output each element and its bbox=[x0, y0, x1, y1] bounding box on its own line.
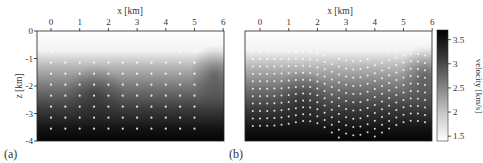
sample-point bbox=[316, 73, 318, 75]
sample-point bbox=[122, 84, 124, 86]
sample-point bbox=[273, 95, 275, 97]
sample-point bbox=[64, 117, 66, 119]
sample-point bbox=[352, 118, 354, 120]
sample-point bbox=[410, 53, 412, 55]
sample-point bbox=[374, 128, 376, 130]
sample-point bbox=[107, 84, 109, 86]
sample-point bbox=[179, 51, 181, 53]
sample-point bbox=[93, 128, 95, 130]
x-tick-label: 6 bbox=[221, 17, 226, 27]
sample-point bbox=[266, 125, 268, 127]
sample-point bbox=[107, 62, 109, 64]
sample-point bbox=[424, 62, 426, 64]
sample-point bbox=[179, 73, 181, 75]
sample-point bbox=[288, 51, 290, 53]
sample-point bbox=[410, 60, 412, 62]
sample-point bbox=[150, 62, 152, 64]
panel-a-z-axis: 0-1-2-3-4 bbox=[26, 26, 38, 146]
sample-point bbox=[395, 56, 397, 58]
sample-point bbox=[359, 126, 361, 128]
sample-point bbox=[316, 108, 318, 110]
sample-point bbox=[165, 106, 167, 108]
sample-point bbox=[252, 66, 254, 68]
sample-point bbox=[165, 62, 167, 64]
sample-point bbox=[309, 93, 311, 95]
sample-point bbox=[324, 126, 326, 128]
sample-point bbox=[273, 110, 275, 112]
sample-point bbox=[338, 113, 340, 115]
sample-point bbox=[93, 62, 95, 64]
colorbar-tick-label: 3 bbox=[453, 59, 458, 69]
sample-point bbox=[417, 113, 419, 115]
sample-point bbox=[374, 136, 376, 138]
sample-point bbox=[345, 76, 347, 78]
sample-point bbox=[93, 73, 95, 75]
sample-point bbox=[179, 106, 181, 108]
sample-point bbox=[281, 117, 283, 119]
sample-point bbox=[50, 106, 52, 108]
sample-point bbox=[288, 101, 290, 103]
panel-b-x-label: x [km] bbox=[327, 6, 353, 16]
z-tick-label: -1 bbox=[26, 54, 34, 64]
sample-point bbox=[417, 53, 419, 55]
sample-point bbox=[93, 84, 95, 86]
sample-point bbox=[50, 117, 52, 119]
sample-point bbox=[193, 106, 195, 108]
sample-point bbox=[273, 58, 275, 60]
sample-point bbox=[295, 100, 297, 102]
sample-point bbox=[259, 95, 261, 97]
sample-point bbox=[273, 51, 275, 53]
sample-point bbox=[266, 80, 268, 82]
sample-point bbox=[403, 99, 405, 101]
sample-point bbox=[410, 112, 412, 114]
sample-point bbox=[259, 58, 261, 60]
panel-a: 0123456 0-1-2-3-4 x [km] z [km] (a) bbox=[4, 0, 240, 161]
sample-point bbox=[309, 72, 311, 74]
sample-point bbox=[316, 80, 318, 82]
sample-point bbox=[403, 47, 405, 49]
sample-point bbox=[309, 86, 311, 88]
sample-point bbox=[179, 84, 181, 86]
sample-point bbox=[338, 129, 340, 131]
x-tick-label: 0 bbox=[49, 17, 54, 27]
colorbar-tick-label: 2.5 bbox=[453, 83, 465, 93]
sample-point bbox=[252, 73, 254, 75]
sample-point bbox=[193, 51, 195, 53]
sample-point bbox=[252, 58, 254, 60]
z-tick-label: 0 bbox=[29, 26, 34, 36]
sample-point bbox=[252, 88, 254, 90]
sample-point bbox=[410, 75, 412, 77]
sample-point bbox=[352, 77, 354, 79]
x-tick-label: 3 bbox=[344, 17, 349, 27]
sample-point bbox=[259, 88, 261, 90]
sample-point bbox=[424, 69, 426, 71]
sample-point bbox=[193, 84, 195, 86]
sample-point bbox=[381, 62, 383, 64]
sample-point bbox=[193, 95, 195, 97]
sample-point bbox=[309, 120, 311, 122]
sample-point bbox=[352, 85, 354, 87]
sample-point bbox=[122, 95, 124, 97]
sample-point bbox=[295, 58, 297, 60]
sample-point bbox=[252, 80, 254, 82]
sample-point bbox=[395, 87, 397, 89]
sample-point bbox=[165, 117, 167, 119]
sample-point bbox=[359, 134, 361, 136]
sample-point bbox=[381, 70, 383, 72]
sample-point bbox=[359, 117, 361, 119]
sample-point bbox=[122, 106, 124, 108]
sample-point bbox=[424, 84, 426, 86]
sample-point bbox=[403, 77, 405, 79]
sample-point bbox=[403, 106, 405, 108]
sample-point bbox=[331, 101, 333, 103]
sample-point bbox=[281, 95, 283, 97]
sample-point bbox=[266, 73, 268, 75]
sample-point bbox=[367, 131, 369, 133]
sample-point bbox=[395, 94, 397, 96]
panel-b: 0123456 x [km] (b) bbox=[229, 0, 450, 161]
sample-point bbox=[193, 73, 195, 75]
sample-point bbox=[352, 126, 354, 128]
sample-point bbox=[381, 124, 383, 126]
sample-point bbox=[359, 76, 361, 78]
sample-point bbox=[410, 90, 412, 92]
